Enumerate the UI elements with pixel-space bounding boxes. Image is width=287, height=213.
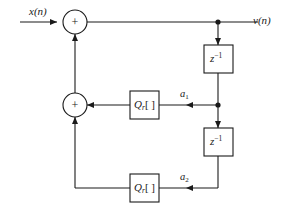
quantizer-1-subscript: r [142,103,145,112]
a2-adder-arrowhead-icon [72,117,78,124]
delay-2-exponent: −1 [214,134,222,143]
coef-a1-subscript: 1 [185,93,189,101]
quantizer-2-subscript: r [142,186,145,195]
quantizer-2-brackets: [ ] [145,181,155,193]
diagram-canvas: x(n) v(n) + + z−1 z−1 Qr[ ] Qr[ ] a1 a2 [0,0,287,213]
quantizer-2-base: Q [134,181,142,193]
mid-to-top-arrowhead-icon [72,34,78,41]
adder-top-plus-sign: + [72,16,79,28]
adder-mid-plus-sign: + [72,99,79,111]
input-arrowhead-icon [50,19,57,25]
quantizer-block-2-label: Qr[ ] [134,182,155,193]
delay-block-1-label: z−1 [210,53,222,64]
a1-arrowhead-icon [186,102,193,108]
input-signal-label: x(n) [29,6,47,17]
delay-block-2-label: z−1 [210,136,222,147]
input-wire-group [20,19,57,25]
a2-arrowhead-icon [186,185,193,191]
delay2-input-arrowhead-icon [215,121,221,128]
mid-to-top-wire-group [72,34,78,93]
coef-a2-subscript: 2 [185,176,189,184]
delay1-input-arrowhead-icon [215,38,221,45]
delay-1-exponent: −1 [214,51,222,60]
quantizer-1-brackets: [ ] [145,98,155,110]
coefficient-a1-label: a1 [180,89,189,100]
delay1-input-wire-group [215,22,221,45]
delay2-input-wire-group [215,105,221,128]
quantizer-1-base: Q [134,98,142,110]
quantizer-block-1-label: Qr[ ] [134,99,155,110]
output-signal-label: v(n) [253,15,271,26]
a1-adder-arrowhead-icon [87,102,94,108]
coefficient-a2-label: a2 [180,172,189,183]
